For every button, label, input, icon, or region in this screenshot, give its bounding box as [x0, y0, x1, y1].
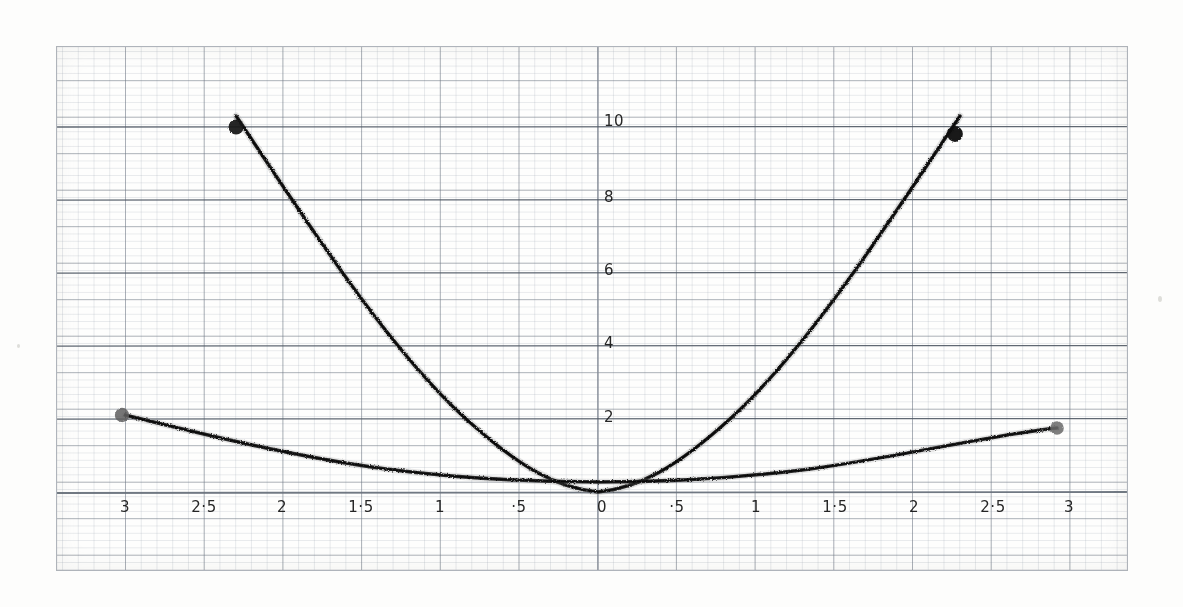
- x-tick-label-7: ·5: [669, 498, 684, 516]
- x-tick-label-10: 2: [909, 498, 919, 516]
- endpoint-marker-upper-right: [947, 126, 963, 142]
- y-tick-label-4: 4: [604, 334, 614, 352]
- x-tick-label-9: 1·5: [822, 498, 847, 516]
- scan-speck: [1158, 296, 1162, 302]
- curve-upper-parabola: [229, 116, 963, 492]
- x-tick-label-4: 1: [435, 498, 445, 516]
- y-tick-label-6: 6: [604, 261, 614, 279]
- x-tick-label-0: 3: [120, 498, 130, 516]
- endpoint-marker-lower-right: [1050, 421, 1064, 435]
- y-tick-label-2: 2: [604, 408, 614, 426]
- x-tick-label-5: ·5: [511, 498, 526, 516]
- scan-speck: [17, 344, 20, 348]
- x-tick-label-8: 1: [751, 498, 761, 516]
- screenshot-canvas: 3 2·5 2 1·5 1 ·5 0 ·5 1 1·5 2 2·5 3 2 4 …: [0, 0, 1183, 607]
- endpoint-marker-lower-left: [115, 408, 129, 422]
- y-tick-label-8: 8: [604, 188, 614, 206]
- graph-paper-sheet: 3 2·5 2 1·5 1 ·5 0 ·5 1 1·5 2 2·5 3 2 4 …: [56, 46, 1128, 571]
- x-tick-label-2: 2: [277, 498, 287, 516]
- y-tick-label-10: 10: [604, 112, 624, 130]
- x-tick-label-11: 2·5: [980, 498, 1005, 516]
- curve-lower-parabola: [115, 408, 1064, 482]
- plot-curves: [56, 46, 1128, 571]
- x-tick-label-3: 1·5: [348, 498, 373, 516]
- x-tick-label-12: 3: [1064, 498, 1074, 516]
- x-tick-label-6: 0: [597, 498, 607, 516]
- x-tick-label-1: 2·5: [191, 498, 216, 516]
- endpoint-marker-upper-left: [229, 119, 244, 134]
